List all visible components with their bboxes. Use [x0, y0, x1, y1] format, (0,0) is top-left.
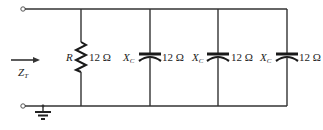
capacitor-value-label: 12 Ω	[299, 51, 321, 63]
resistor-value-label: 12 Ω	[89, 51, 111, 63]
capacitor-value-label: 12 Ω	[231, 51, 253, 63]
resistor-branch: R 12 Ω	[65, 9, 111, 106]
capacitor-branch-2: XC 12 Ω	[191, 9, 253, 106]
top-terminal	[21, 7, 25, 11]
resistor-symbol-label: R	[65, 51, 73, 63]
capacitor-branch-1: XC 12 Ω	[122, 9, 184, 106]
capacitor-symbol-label: XC	[259, 51, 272, 65]
impedance-arrow-icon	[11, 57, 40, 63]
ground-icon	[35, 105, 51, 119]
parallel-rc-circuit: ZT R 12 Ω XC 12 Ω XC 12 Ω	[0, 0, 323, 130]
capacitor-branch-3: XC 12 Ω	[259, 9, 321, 106]
capacitor-symbol-label: XC	[122, 51, 135, 65]
top-rail	[21, 7, 287, 11]
capacitor-value-label: 12 Ω	[162, 51, 184, 63]
total-impedance-label: ZT	[18, 66, 29, 80]
bottom-terminal	[21, 104, 25, 108]
bottom-rail	[21, 104, 287, 108]
resistor-icon	[76, 42, 86, 72]
capacitor-symbol-label: XC	[191, 51, 204, 65]
